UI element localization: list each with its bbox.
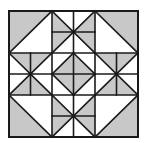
star-center-dot xyxy=(115,72,119,76)
star-center-dot xyxy=(29,72,33,76)
star-center-dot xyxy=(72,114,76,118)
quilt-pattern-diagram xyxy=(0,0,148,143)
star-center-dot xyxy=(72,30,76,34)
